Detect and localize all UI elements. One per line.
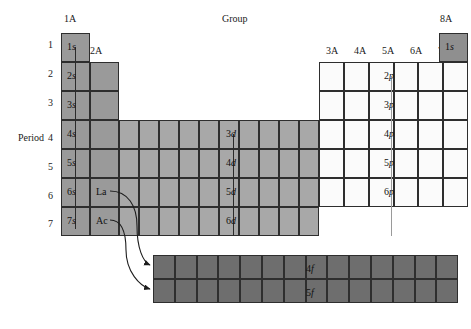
actinide-arrow (110, 220, 150, 289)
lanthanide-arrow (110, 191, 150, 265)
periodic-table-diagram: 1A Group 8A 2A 3A 4A 5A 6A 7A Period 1 2… (0, 0, 471, 329)
series-connector-arrows (0, 0, 471, 329)
